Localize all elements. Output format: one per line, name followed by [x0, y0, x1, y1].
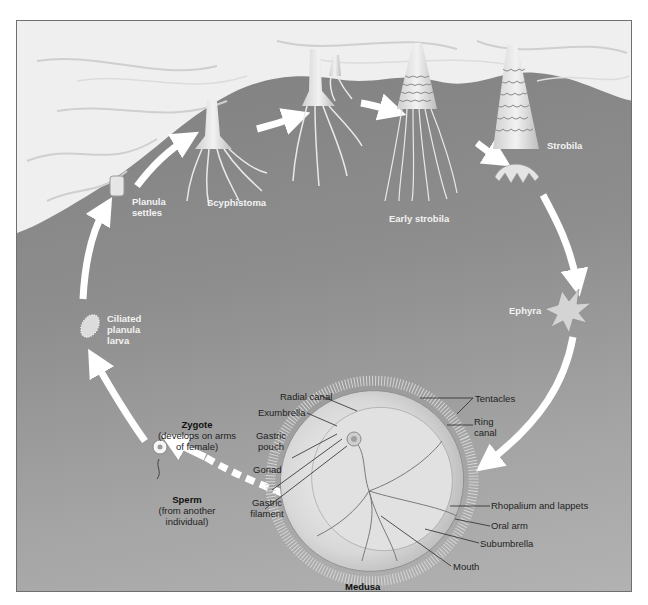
label-line: pouch	[253, 441, 289, 452]
label-oral-arm: Oral arm	[491, 520, 528, 531]
label-line: Ring	[474, 416, 497, 427]
life-cycle-figure: Planula settles Scyphistoma Early strobi…	[16, 20, 632, 592]
label-note: of female)	[147, 441, 247, 452]
label-ciliated-planula-larva: Ciliated planula larva	[107, 313, 141, 346]
ciliated-planula-illustration	[77, 312, 103, 341]
label-line: filament	[247, 508, 287, 519]
substrate	[17, 21, 632, 233]
label-title: Sperm	[142, 494, 232, 505]
label-line: planula	[107, 324, 141, 335]
label-exumbrella: Exumbrella	[258, 407, 306, 418]
label-gastric-pouch: Gastric pouch	[253, 430, 289, 452]
label-scyphistoma: Scyphistoma	[207, 197, 266, 208]
label-planula-settles: Planula settles	[132, 196, 166, 218]
label-tentacles: Tentacles	[475, 393, 515, 404]
ephyra-illustration	[545, 289, 591, 333]
label-gastric-filament: Gastric filament	[247, 497, 287, 519]
label-medusa: Medusa	[345, 581, 380, 592]
label-strobila: Strobila	[547, 140, 582, 151]
label-note: (from another	[142, 505, 232, 516]
label-line: larva	[107, 335, 141, 346]
label-ephyra: Ephyra	[509, 305, 541, 316]
label-line: canal	[474, 427, 497, 438]
label-radial-canal: Radial canal	[280, 391, 332, 402]
label-line: settles	[132, 207, 166, 218]
label-subumbrella: Subumbrella	[480, 538, 533, 549]
label-mouth: Mouth	[453, 561, 479, 572]
label-zygote: Zygote (develops on arms of female)	[147, 419, 247, 452]
caption-strip	[0, 594, 648, 605]
label-early-strobila: Early strobila	[389, 213, 449, 224]
label-line: Gastric	[253, 430, 289, 441]
planula-settled-illustration	[110, 176, 124, 196]
detaching-ephyra	[495, 164, 539, 183]
label-line: Gastric	[247, 497, 287, 508]
label-line: Planula	[132, 196, 166, 207]
label-note: individual)	[142, 516, 232, 527]
label-ring-canal: Ring canal	[474, 416, 497, 438]
label-gonad: Gonad	[253, 464, 282, 475]
label-line: Ciliated	[107, 313, 141, 324]
sperm-tail	[157, 459, 159, 479]
label-note: (develops on arms	[147, 430, 247, 441]
scyphistoma-illustration	[187, 101, 267, 206]
label-title: Zygote	[147, 419, 247, 430]
label-rhopalium-and-lappets: Rhopalium and lappets	[491, 500, 588, 511]
label-sperm: Sperm (from another individual)	[142, 494, 232, 527]
